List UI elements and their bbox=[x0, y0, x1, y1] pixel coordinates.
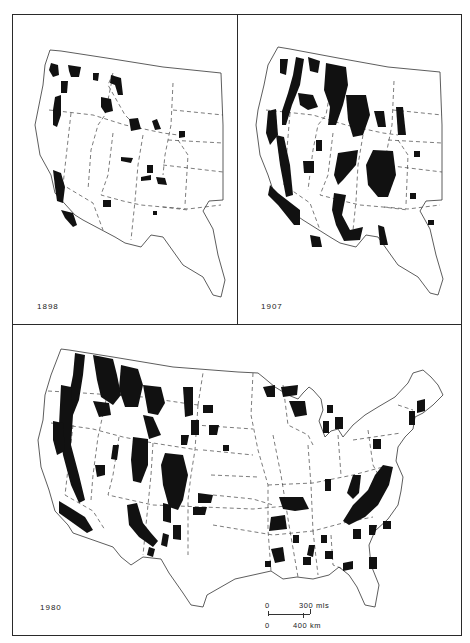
scale-km-zero: 0 bbox=[265, 621, 270, 630]
map-panel-1980: 1980 bbox=[13, 325, 462, 637]
scale-tick-start bbox=[268, 611, 269, 616]
scale-miles-label: 300 mls bbox=[299, 601, 329, 610]
scale-tick-miles bbox=[310, 609, 311, 614]
map-1898-svg bbox=[13, 15, 237, 324]
year-label-1907: 1907 bbox=[261, 302, 283, 311]
map-figure: 1898 bbox=[12, 14, 462, 636]
year-label-1980: 1980 bbox=[40, 603, 62, 612]
scale-miles-zero: 0 bbox=[265, 601, 270, 610]
scale-bar: 0 300 mls 0 400 km bbox=[265, 601, 355, 637]
scale-km-label: 400 km bbox=[293, 621, 321, 630]
scale-tick-km bbox=[303, 613, 304, 618]
panel-divider-vertical bbox=[237, 15, 238, 325]
map-panel-1907: 1907 bbox=[238, 15, 462, 324]
map-panel-1898: 1898 bbox=[13, 15, 237, 324]
map-1980-svg bbox=[13, 325, 462, 637]
map-1907-svg bbox=[238, 15, 462, 324]
year-label-1898: 1898 bbox=[37, 302, 59, 311]
